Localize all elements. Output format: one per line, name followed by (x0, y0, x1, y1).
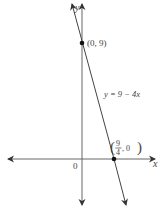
equation-label: y = 9 − 4x (103, 89, 140, 99)
y-intercept-point (80, 41, 85, 46)
origin-label: 0 (73, 161, 78, 171)
fraction-rest: , 0 (122, 144, 130, 153)
fraction-denominator: 4 (116, 148, 120, 157)
svg-text:): ) (137, 139, 142, 156)
x-intercept-point (112, 157, 117, 162)
y-intercept-label: (0, 9) (87, 38, 107, 48)
y-axis-label: y (74, 2, 80, 13)
x-intercept-label: ( 9 4 , 0 ) (110, 139, 142, 157)
line-y-equals-9-minus-4x (72, 4, 126, 205)
fraction-numerator: 9 (116, 139, 120, 148)
x-axis-label: x (152, 158, 158, 169)
graph: y x 0 (0, 9) y = 9 − 4x ( 9 4 , 0 ) (0, 0, 158, 208)
svg-text:(: ( (110, 139, 115, 156)
